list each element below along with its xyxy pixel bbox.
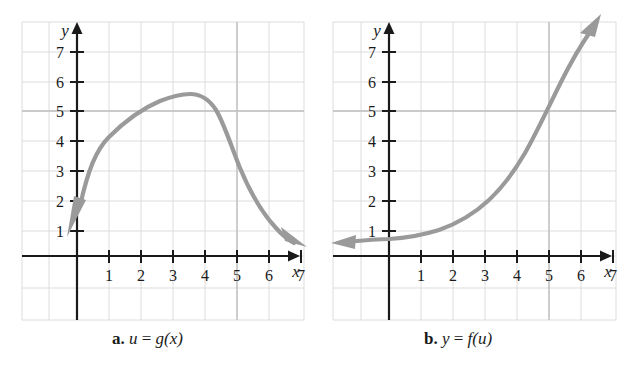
x-tick-label: 5 xyxy=(545,267,553,284)
y-tick-label: 4 xyxy=(56,133,64,150)
x-tick-label: 1 xyxy=(105,267,113,284)
y-tick-label: 3 xyxy=(368,163,376,180)
y-tick-label: 7 xyxy=(368,44,376,61)
x-tick-labels-a: 1 2 3 4 5 6 7 xyxy=(105,267,305,284)
x-tick-label: 3 xyxy=(169,267,177,284)
x-axis-b xyxy=(333,251,612,262)
x-axis-label-a: x xyxy=(291,262,300,281)
y-tick-label: 7 xyxy=(56,44,64,61)
caption-b-rhs: f(u) xyxy=(468,329,493,348)
x-tick-labels-b: 1 2 3 4 5 6 7 xyxy=(417,267,617,284)
x-tick-label: 1 xyxy=(417,267,425,284)
caption-b: b. y = f(u) xyxy=(424,329,492,349)
curve-b-start-arrowhead xyxy=(331,235,356,249)
y-tick-label: 4 xyxy=(368,133,376,150)
y-tick-label: 6 xyxy=(368,74,376,91)
y-tick-label: 5 xyxy=(368,103,376,120)
figure-container: 1 2 3 4 5 6 7 1 2 3 4 5 6 7 x y xyxy=(0,0,628,369)
y-axis-label-b: y xyxy=(371,21,381,40)
y-tick-labels-a: 1 2 3 4 5 6 7 xyxy=(56,44,64,240)
graph-a-svg: 1 2 3 4 5 6 7 1 2 3 4 5 6 7 x y xyxy=(0,0,311,325)
x-tick-label: 4 xyxy=(513,267,521,284)
x-tick-label: 3 xyxy=(481,267,489,284)
grid-minor-a xyxy=(22,22,304,320)
y-axis-label-a: y xyxy=(59,21,69,40)
caption-a-rhs: g(x) xyxy=(156,329,183,348)
x-tick-label: 4 xyxy=(201,267,209,284)
x-tick-label: 6 xyxy=(265,267,273,284)
panel-a: 1 2 3 4 5 6 7 1 2 3 4 5 6 7 x y xyxy=(0,0,311,325)
y-tick-labels-b: 1 2 3 4 5 6 7 xyxy=(368,44,376,240)
graph-b-svg: 1 2 3 4 5 6 7 1 2 3 4 5 6 7 x y xyxy=(311,0,628,325)
caption-a: a. u = g(x) xyxy=(112,329,183,349)
y-tick-label: 2 xyxy=(56,193,64,210)
panel-b: 1 2 3 4 5 6 7 1 2 3 4 5 6 7 x y xyxy=(311,0,628,325)
x-axis-a xyxy=(22,251,300,262)
x-tick-label: 5 xyxy=(233,267,241,284)
y-tick-label: 6 xyxy=(56,74,64,91)
caption-b-label: b. xyxy=(424,329,438,348)
caption-a-lhs: u xyxy=(129,329,138,348)
curve-b-end-arrowhead xyxy=(580,14,601,37)
x-tick-label: 6 xyxy=(577,267,585,284)
caption-b-lhs: y xyxy=(442,329,450,348)
y-tick-label: 3 xyxy=(56,163,64,180)
y-tick-label: 5 xyxy=(56,103,64,120)
caption-b-eq: = xyxy=(454,329,464,348)
x-tick-label: 2 xyxy=(449,267,457,284)
y-tick-label: 2 xyxy=(368,193,376,210)
caption-a-eq: = xyxy=(142,329,152,348)
x-tick-label: 2 xyxy=(137,267,145,284)
x-axis-label-b: x xyxy=(603,262,612,281)
y-tick-label: 1 xyxy=(56,223,64,240)
caption-a-label: a. xyxy=(112,329,125,348)
